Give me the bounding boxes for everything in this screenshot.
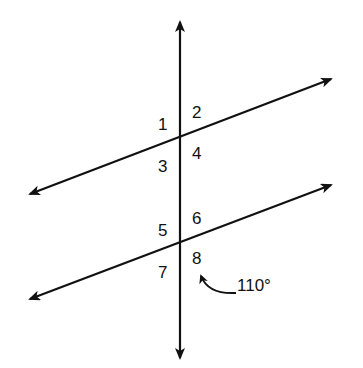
- diagram-svg: 1 2 3 4 5 6 7 8 110°: [0, 0, 363, 368]
- angle-label-5: 5: [158, 221, 167, 240]
- angle-label-7: 7: [158, 263, 167, 282]
- parallel-lines-diagram: 1 2 3 4 5 6 7 8 110°: [0, 0, 363, 368]
- angle-label-6: 6: [192, 209, 201, 228]
- angle-label-1: 1: [158, 115, 167, 134]
- angle-label-2: 2: [192, 103, 201, 122]
- angle-label-4: 4: [192, 144, 201, 163]
- angle-measure-annotation: 110°: [237, 276, 271, 295]
- angle-label-8: 8: [192, 249, 201, 268]
- angle-label-3: 3: [158, 157, 167, 176]
- curved-arrow-icon: [201, 276, 236, 293]
